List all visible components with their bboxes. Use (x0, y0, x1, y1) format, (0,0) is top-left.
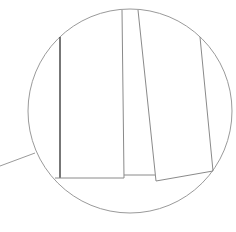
bottom-right-edge-line (156, 171, 213, 181)
detail-segments (55, 10, 213, 181)
detail-callout-diagram (0, 0, 236, 232)
diagram-canvas (0, 0, 236, 232)
slanted-right-line (200, 37, 213, 171)
center-vertical-line (122, 10, 124, 178)
leader-line (0, 153, 35, 166)
slanted-left-line (138, 10, 156, 181)
magnifier-circle (28, 9, 232, 213)
